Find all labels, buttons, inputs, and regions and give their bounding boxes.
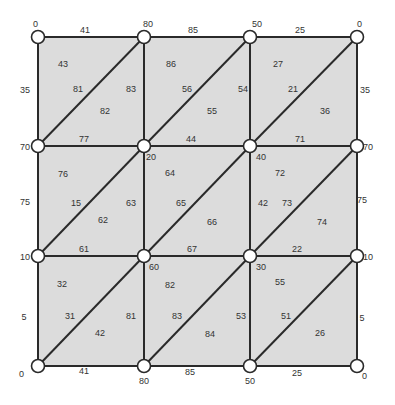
edge-label: 15 — [71, 198, 81, 208]
node-circle — [138, 360, 151, 373]
edge-label: 85 — [185, 367, 195, 377]
node-circle — [351, 140, 364, 153]
node-circle — [138, 31, 151, 44]
edge-label: 83 — [126, 84, 136, 94]
node-label: 30 — [256, 262, 266, 272]
edge-label: 41 — [79, 366, 89, 376]
edge-label: 73 — [282, 198, 292, 208]
face-label: 84 — [205, 329, 215, 339]
node-circle — [32, 250, 45, 263]
edge-label: 75 — [357, 195, 367, 205]
face-label: 64 — [165, 168, 175, 178]
node-label: 0 — [19, 369, 24, 379]
edge-label: 35 — [20, 85, 30, 95]
face-label: 82 — [100, 106, 110, 116]
node-circle — [351, 250, 364, 263]
edge-label: 63 — [126, 198, 136, 208]
node-label: 50 — [245, 376, 255, 386]
face-label: 42 — [95, 328, 105, 338]
node-circle — [32, 31, 45, 44]
node-label: 20 — [146, 152, 156, 162]
face-label: 76 — [58, 169, 68, 179]
node-label: 0 — [362, 371, 367, 381]
edge-label: 54 — [238, 84, 248, 94]
face-label: 26 — [315, 328, 325, 338]
face-label: 62 — [98, 215, 108, 225]
face-label: 66 — [207, 217, 217, 227]
edge-label: 77 — [79, 134, 89, 144]
edge-label: 61 — [79, 244, 89, 254]
face-label: 43 — [58, 59, 68, 69]
node-label: 70 — [20, 142, 30, 152]
node-circle — [244, 31, 257, 44]
edge-label: 56 — [182, 84, 192, 94]
edge-label: 44 — [186, 134, 196, 144]
face-label: 55 — [207, 106, 217, 116]
edge-label: 83 — [172, 311, 182, 321]
edge-label: 81 — [73, 84, 83, 94]
edge-label: 53 — [236, 311, 246, 321]
edge-label: 41 — [80, 25, 90, 35]
edge-label: 5 — [21, 312, 26, 322]
triangulated-grid-diagram: 4185253583543581562177447175634275156573… — [0, 0, 395, 405]
node-circle — [244, 250, 257, 263]
edge-label: 67 — [187, 244, 197, 254]
node-label: 80 — [139, 376, 149, 386]
face-label: 86 — [166, 59, 176, 69]
edge-label: 25 — [295, 25, 305, 35]
edge-label: 81 — [126, 311, 136, 321]
face-label: 72 — [275, 168, 285, 178]
edge-label: 51 — [281, 311, 291, 321]
node-circle — [244, 360, 257, 373]
edge-label: 65 — [176, 198, 186, 208]
node-circle — [138, 140, 151, 153]
edge-label: 31 — [65, 311, 75, 321]
face-label: 74 — [317, 217, 327, 227]
node-circle — [32, 140, 45, 153]
edge-label: 22 — [292, 244, 302, 254]
node-circle — [351, 31, 364, 44]
node-label: 80 — [143, 19, 153, 29]
node-circle — [32, 360, 45, 373]
face-label: 32 — [57, 279, 67, 289]
node-circle — [138, 250, 151, 263]
edge-label: 75 — [20, 197, 30, 207]
face-label: 36 — [320, 106, 330, 116]
node-label: 70 — [363, 142, 373, 152]
node-label: 50 — [252, 19, 262, 29]
edge-label: 42 — [258, 198, 268, 208]
node-label: 60 — [149, 262, 159, 272]
face-label: 27 — [273, 59, 283, 69]
edge-label: 35 — [360, 85, 370, 95]
edge-label: 5 — [359, 313, 364, 323]
node-label: 0 — [33, 19, 38, 29]
edge-label: 85 — [188, 25, 198, 35]
node-circle — [244, 140, 257, 153]
edge-label: 71 — [295, 134, 305, 144]
node-label: 10 — [363, 252, 373, 262]
node-label: 0 — [357, 19, 362, 29]
face-label: 82 — [165, 280, 175, 290]
node-label: 10 — [20, 252, 30, 262]
edge-label: 25 — [292, 368, 302, 378]
edge-label: 21 — [288, 84, 298, 94]
face-label: 55 — [275, 277, 285, 287]
node-label: 40 — [256, 152, 266, 162]
